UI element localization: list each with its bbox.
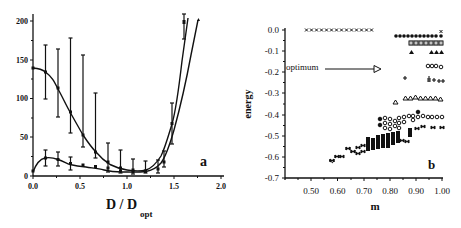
panel-b-ytick: -0.6 [265,152,280,162]
panel-a-markers [32,18,201,173]
panel-a: 0 50 100 150 200 0.0 0.5 1.0 1.5 2.0 D /… [16,14,226,219]
panel-b-xtick: 0.80 [382,186,398,196]
panel-b-ytick: 0.0 [268,25,280,35]
panel-b-ytick: -0.7 [265,173,280,183]
optimum-annotation: optimum [286,62,319,72]
panel-a-ytick: 100 [16,94,28,103]
panel-a-xtick: 1.0 [122,182,132,191]
panel-b-squares [409,40,443,46]
panel-a-xtick: 0.0 [28,182,38,191]
panel-b-ytick: -0.3 [265,88,280,98]
panel-b-ytick: -0.5 [265,131,280,141]
panel-a-xtick: 2.0 [216,182,226,191]
panel-a-upper-error-bars [44,14,187,174]
panel-b-xlabel: m [370,200,379,212]
panel-b-ytick: -0.2 [265,67,279,77]
optimum-arrow-head-icon [374,66,381,73]
panel-a-xtick: 1.5 [169,182,179,191]
panel-b-xtick: 0.90 [408,186,424,196]
panel-b: 0.0 -0.1 -0.2 -0.3 -0.4 -0.5 -0.6 -0.7 0… [242,25,450,212]
panel-b-open-triangles [393,95,443,104]
panel-a-ytick: 200 [16,17,28,26]
panel-b-label: b [428,157,435,172]
panel-a-xlabel: D / D [106,197,137,212]
panel-b-bowtie-markers [329,125,444,163]
panel-a-ytick: 150 [16,56,28,65]
panel-a-ytick: 0 [24,172,28,181]
panel-b-xtick: 1.00 [434,186,450,196]
panel-b-filled-triangles [409,50,444,54]
panel-b-xtick: 0.50 [303,186,319,196]
panel-b-xtick: 0.60 [330,186,346,196]
panel-b-plus-markers [403,76,445,83]
panel-a-xlabel-subscript: opt [140,209,153,219]
panel-a-xtick: 0.5 [75,182,85,191]
panel-b-ylabel: energy [242,90,253,119]
panel-b-ytick: -0.4 [265,110,280,120]
figure: 0 50 100 150 200 0.0 0.5 1.0 1.5 2.0 D /… [0,0,461,228]
panel-b-filled-circles [394,30,443,38]
panel-b-ytick: -0.1 [265,46,279,56]
panel-b-x-markers [305,29,373,32]
panel-a-ytick: 50 [20,133,28,142]
panel-b-xtick: 0.70 [356,186,372,196]
panel-a-upper-curve [33,18,188,171]
panel-b-open-circles [426,64,443,69]
panel-a-label: a [200,154,207,169]
